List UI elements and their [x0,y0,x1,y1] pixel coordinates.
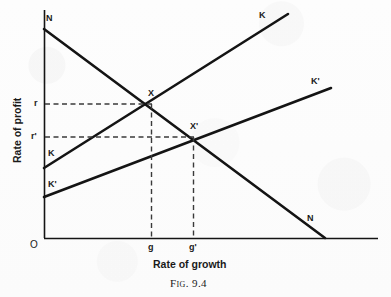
series-label-k-prime-left: K' [48,180,57,189]
y-tick-label-r: r [34,99,38,108]
y-tick-label-r-prime: r' [31,132,37,141]
series-line-k-prime [44,88,331,197]
origin-label: O [30,240,38,250]
point-label-x-prime: X' [190,122,198,131]
series-line-k [44,14,288,168]
series-line-n [44,29,325,238]
x-tick-label-g-prime: g' [189,243,197,252]
series-label-k-prime-right: K' [311,77,320,86]
x-tick-label-g: g [148,243,154,252]
figure-page: N N K K' K K' X X' r r' g g' O Rate of p… [0,0,391,297]
series-label-k-left: K [48,149,55,158]
series-label-n-bottom: N [307,214,314,223]
chart-plot-area [0,0,391,297]
figure-caption: Fig. 9.4 [170,278,207,289]
point-label-x: X [148,89,154,98]
series-label-n-top: N [46,14,53,23]
series-label-k-right: K [259,11,266,20]
y-axis-title: Rate of profit [12,98,23,163]
x-axis-title: Rate of growth [153,259,227,270]
